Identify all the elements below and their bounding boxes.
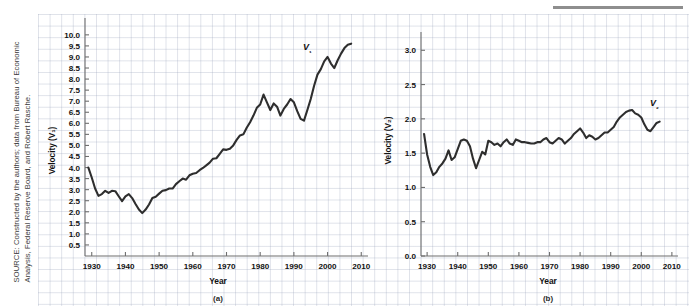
svg-text:1930: 1930 — [418, 262, 437, 271]
svg-text:1990: 1990 — [602, 262, 621, 271]
svg-text:4.5: 4.5 — [69, 152, 81, 161]
panel-a-x-axis-label: Year — [178, 276, 258, 286]
svg-text:5.0: 5.0 — [69, 141, 81, 150]
svg-text:5.5: 5.5 — [69, 130, 81, 139]
svg-text:1.0: 1.0 — [405, 183, 417, 192]
svg-text:1950: 1950 — [150, 262, 169, 271]
svg-text:0.5: 0.5 — [69, 241, 81, 250]
panel-a: 0.51.01.52.02.53.03.54.04.55.05.56.06.57… — [38, 0, 376, 306]
svg-text:1940: 1940 — [116, 262, 135, 271]
svg-text:0.5: 0.5 — [405, 218, 417, 227]
panel-b-y-axis-label: Velocity (V₂) — [384, 91, 393, 191]
svg-text:3.0: 3.0 — [69, 186, 81, 195]
panel-a-series-label: V₁ — [303, 42, 312, 54]
panel-a-caption: (a) — [178, 294, 258, 303]
svg-text:6.0: 6.0 — [69, 119, 81, 128]
panel-b-plot: 0.00.51.01.52.02.53.01930194019501960197… — [378, 0, 689, 306]
svg-text:4.0: 4.0 — [69, 164, 81, 173]
panel-a-y-axis-label: Velocity (V₁) — [48, 101, 57, 201]
source-note: SOURCE: Constructed by the authors; data… — [12, 15, 33, 283]
svg-text:9.0: 9.0 — [69, 53, 81, 62]
panel-a-plot: 0.51.01.52.02.53.03.54.04.55.05.56.06.57… — [38, 0, 376, 306]
svg-text:3.5: 3.5 — [69, 175, 81, 184]
svg-text:1980: 1980 — [571, 262, 590, 271]
svg-text:2010: 2010 — [663, 262, 682, 271]
svg-text:0.0: 0.0 — [405, 252, 417, 261]
svg-text:1950: 1950 — [479, 262, 498, 271]
svg-text:1.5: 1.5 — [69, 219, 81, 228]
panel-b: 0.00.51.01.52.02.53.01930194019501960197… — [378, 0, 689, 306]
svg-text:2.0: 2.0 — [69, 208, 81, 217]
figure-root: SOURCE: Constructed by the authors; data… — [0, 0, 689, 306]
svg-text:7.0: 7.0 — [69, 97, 81, 106]
svg-text:6.5: 6.5 — [69, 108, 81, 117]
svg-text:9.5: 9.5 — [69, 42, 81, 51]
svg-text:1.5: 1.5 — [405, 149, 417, 158]
svg-text:8.5: 8.5 — [69, 64, 81, 73]
svg-text:8.0: 8.0 — [69, 75, 81, 84]
svg-text:1930: 1930 — [83, 262, 102, 271]
svg-text:7.5: 7.5 — [69, 86, 81, 95]
svg-text:1.0: 1.0 — [69, 230, 81, 239]
svg-text:1980: 1980 — [251, 262, 270, 271]
svg-text:2000: 2000 — [319, 262, 338, 271]
svg-text:1990: 1990 — [285, 262, 304, 271]
panel-b-caption: (b) — [508, 294, 588, 303]
svg-text:2.5: 2.5 — [405, 81, 417, 90]
svg-text:1940: 1940 — [449, 262, 468, 271]
svg-text:2010: 2010 — [352, 262, 371, 271]
svg-text:1970: 1970 — [540, 262, 559, 271]
svg-text:1960: 1960 — [510, 262, 529, 271]
svg-text:1960: 1960 — [184, 262, 203, 271]
panel-b-series-label: V₂ — [650, 98, 659, 110]
svg-text:2.5: 2.5 — [69, 197, 81, 206]
svg-text:2000: 2000 — [632, 262, 651, 271]
panel-b-x-axis-label: Year — [508, 276, 588, 286]
svg-text:2.0: 2.0 — [405, 115, 417, 124]
svg-text:1970: 1970 — [217, 262, 236, 271]
svg-text:10.0: 10.0 — [64, 31, 80, 40]
svg-text:3.0: 3.0 — [405, 46, 417, 55]
